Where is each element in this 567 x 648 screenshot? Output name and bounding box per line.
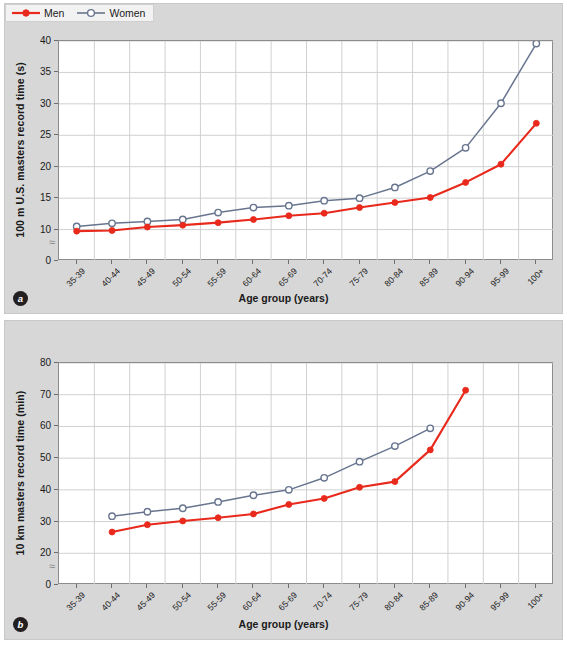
data-point-men xyxy=(463,387,469,393)
x-tick-mark xyxy=(76,584,77,588)
plot-area-a xyxy=(58,40,553,260)
data-point-men xyxy=(74,228,80,234)
x-tick-mark xyxy=(535,260,536,264)
chart-panel-b: 10 km masters record time (min) 02030405… xyxy=(4,320,563,640)
data-point-women xyxy=(250,204,256,210)
data-point-men xyxy=(463,179,469,185)
y-tick-label: 60 xyxy=(29,420,51,431)
x-tick-mark xyxy=(394,584,395,588)
data-point-women xyxy=(533,41,539,47)
x-tick-mark xyxy=(288,260,289,264)
y-axis-break-a: ≈ xyxy=(49,237,54,248)
y-tick-label: 30 xyxy=(29,97,51,108)
legend-label-women: Women xyxy=(109,7,145,19)
data-point-men xyxy=(144,522,150,528)
legend-marker-women-icon xyxy=(77,8,105,18)
data-point-women xyxy=(144,509,150,515)
y-tick-label: 15 xyxy=(29,192,51,203)
data-point-women xyxy=(180,505,186,511)
data-point-men xyxy=(357,484,363,490)
y-tick-label: 70 xyxy=(29,388,51,399)
x-tick-mark xyxy=(465,260,466,264)
x-tick-mark xyxy=(217,584,218,588)
data-point-men xyxy=(109,529,115,535)
data-point-women xyxy=(392,443,398,449)
legend: Men Women xyxy=(5,4,154,22)
x-tick-mark xyxy=(359,584,360,588)
x-tick-mark xyxy=(394,260,395,264)
y-tick-label: 0 xyxy=(29,255,51,266)
x-axis-title-a: Age group (years) xyxy=(5,292,562,304)
y-tick-mark xyxy=(54,134,58,135)
data-point-women xyxy=(286,202,292,208)
x-tick-mark xyxy=(146,584,147,588)
data-point-men xyxy=(427,447,433,453)
y-tick-mark xyxy=(54,166,58,167)
data-point-men xyxy=(180,518,186,524)
y-tick-mark xyxy=(54,457,58,458)
y-tick-label: 10 xyxy=(29,223,51,234)
y-tick-mark xyxy=(54,521,58,522)
x-tick-mark xyxy=(500,584,501,588)
x-tick-mark xyxy=(500,260,501,264)
data-point-women xyxy=(356,195,362,201)
data-point-men xyxy=(392,200,398,206)
y-tick-mark xyxy=(54,260,58,261)
data-point-women xyxy=(356,458,362,464)
y-tick-label: 40 xyxy=(29,35,51,46)
x-tick-mark xyxy=(252,584,253,588)
y-tick-mark xyxy=(54,71,58,72)
x-tick-mark xyxy=(217,260,218,264)
legend-label-men: Men xyxy=(44,7,64,19)
x-tick-mark xyxy=(429,260,430,264)
x-tick-mark xyxy=(429,584,430,588)
y-tick-mark xyxy=(54,425,58,426)
data-point-men xyxy=(392,479,398,485)
data-point-women xyxy=(462,145,468,151)
data-point-men xyxy=(286,213,292,219)
data-point-men xyxy=(215,220,221,226)
x-axis-title-b: Age group (years) xyxy=(5,618,562,630)
plot-area-b xyxy=(58,362,553,584)
x-tick-mark xyxy=(182,584,183,588)
data-point-men xyxy=(321,210,327,216)
y-tick-mark xyxy=(54,394,58,395)
data-point-men xyxy=(533,120,539,126)
data-point-women xyxy=(427,168,433,174)
panel-label-a: a xyxy=(13,291,28,306)
data-point-men xyxy=(427,195,433,201)
data-point-women xyxy=(427,425,433,431)
data-point-men xyxy=(498,161,504,167)
data-point-men xyxy=(180,222,186,228)
y-tick-label: 20 xyxy=(29,160,51,171)
chart-panel-a: 100 m U.S. masters record time (s) 01015… xyxy=(4,3,563,314)
y-axis-title-b: 10 km masters record time (min) xyxy=(14,362,26,584)
x-tick-mark xyxy=(465,584,466,588)
y-tick-label: 35 xyxy=(29,66,51,77)
figure-container: 100 m U.S. masters record time (s) 01015… xyxy=(0,3,567,648)
data-point-men xyxy=(144,224,150,230)
data-point-men xyxy=(215,515,221,521)
y-axis-break-b: ≈ xyxy=(49,561,54,572)
data-point-men xyxy=(250,217,256,223)
y-tick-mark xyxy=(54,489,58,490)
data-point-women xyxy=(321,197,327,203)
x-tick-mark xyxy=(359,260,360,264)
x-tick-mark xyxy=(111,260,112,264)
y-tick-label: 50 xyxy=(29,452,51,463)
data-point-women xyxy=(180,216,186,222)
data-point-women xyxy=(321,475,327,481)
data-point-women xyxy=(215,499,221,505)
y-tick-label: 40 xyxy=(29,483,51,494)
x-tick-mark xyxy=(76,260,77,264)
y-tick-mark xyxy=(54,552,58,553)
y-tick-mark xyxy=(54,229,58,230)
data-point-women xyxy=(215,209,221,215)
x-tick-mark xyxy=(182,260,183,264)
legend-item-women[interactable]: Women xyxy=(77,7,145,19)
legend-item-men[interactable]: Men xyxy=(12,7,64,19)
data-point-men xyxy=(109,228,115,234)
y-tick-label: 25 xyxy=(29,129,51,140)
y-tick-mark xyxy=(54,103,58,104)
x-tick-mark xyxy=(146,260,147,264)
